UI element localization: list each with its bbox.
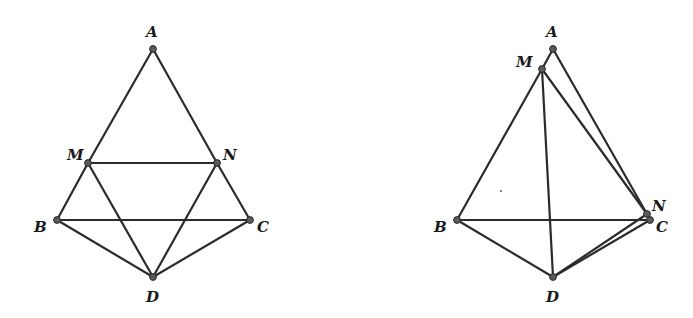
label-d: D: [545, 288, 559, 306]
point-a: [550, 46, 557, 53]
label-b: B: [33, 218, 47, 236]
segment-an: [553, 49, 647, 214]
point-m: [85, 160, 92, 167]
label-d: D: [145, 288, 159, 306]
point-d: [550, 274, 557, 281]
point-b: [454, 217, 461, 224]
segment-cd: [553, 220, 650, 277]
point-d: [150, 274, 157, 281]
segment-mb: [57, 163, 88, 220]
point-b: [54, 217, 61, 224]
label-n: N: [222, 146, 238, 164]
point-m: [539, 66, 546, 73]
label-c: C: [656, 218, 668, 236]
segment-mb: [457, 69, 542, 220]
point-c: [247, 217, 254, 224]
segment-am: [88, 49, 153, 163]
point-n: [214, 160, 221, 167]
label-n: N: [651, 197, 667, 215]
stray-dot: [500, 190, 502, 192]
segment-bd: [57, 220, 153, 277]
segment-an: [153, 49, 217, 163]
label-c: C: [257, 218, 269, 236]
geometry-diagram: AMNBCD AMNBCD: [0, 0, 693, 318]
label-b: B: [433, 218, 447, 236]
point-c: [647, 217, 654, 224]
point-a: [150, 46, 157, 53]
segment-bd: [457, 220, 553, 277]
label-m: M: [66, 146, 84, 164]
segment-nc: [217, 163, 250, 220]
planar-figure: AMNBCD: [33, 23, 269, 306]
label-a: A: [144, 23, 158, 41]
segment-md: [542, 69, 553, 277]
label-m: M: [515, 53, 533, 71]
folded-figure: AMNBCD: [433, 23, 668, 306]
segment-mn: [542, 69, 647, 214]
label-a: A: [544, 23, 558, 41]
segment-cd: [153, 220, 250, 277]
